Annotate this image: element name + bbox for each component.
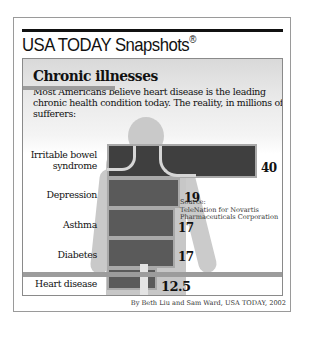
- bar-asthma: [107, 208, 175, 238]
- value-irritable-bowel-syndrome: 40: [261, 161, 277, 175]
- byline-credit: By Beth Liu and Sam Ward, USA TODAY, 200…: [131, 299, 286, 307]
- label-depression: Depression: [47, 189, 97, 200]
- silhouette-leg-gap: [140, 264, 148, 296]
- lower-baseline: [23, 272, 282, 277]
- brand-text: USA TODAY Snapshots: [22, 34, 189, 55]
- header-rule: [22, 29, 283, 32]
- value-diabetes: 17: [178, 250, 194, 264]
- shoulder-outline-right: [159, 146, 196, 177]
- value-heart-disease: 12.5: [161, 279, 191, 294]
- label-heart-disease: Heart disease: [35, 278, 97, 289]
- graphic-panel: Chronic illnesses Most Americans believe…: [22, 58, 283, 296]
- bar-depression: [107, 178, 180, 208]
- label-irritable-bowel-syndrome: Irritable bowelsyndrome: [31, 149, 97, 171]
- value-asthma: 17: [178, 221, 194, 235]
- upper-baseline: [23, 86, 115, 90]
- brand-title: USA TODAY Snapshots®: [22, 34, 196, 56]
- chart-title: Chronic illnesses: [33, 67, 158, 85]
- chart-subtitle: Most Americans believe heart disease is …: [33, 86, 283, 119]
- label-asthma: Asthma: [63, 219, 97, 230]
- registered-mark: ®: [189, 33, 196, 45]
- source-note: Source: TeleNation for Novartis Pharmace…: [180, 199, 278, 222]
- label-diabetes: Diabetes: [58, 249, 97, 260]
